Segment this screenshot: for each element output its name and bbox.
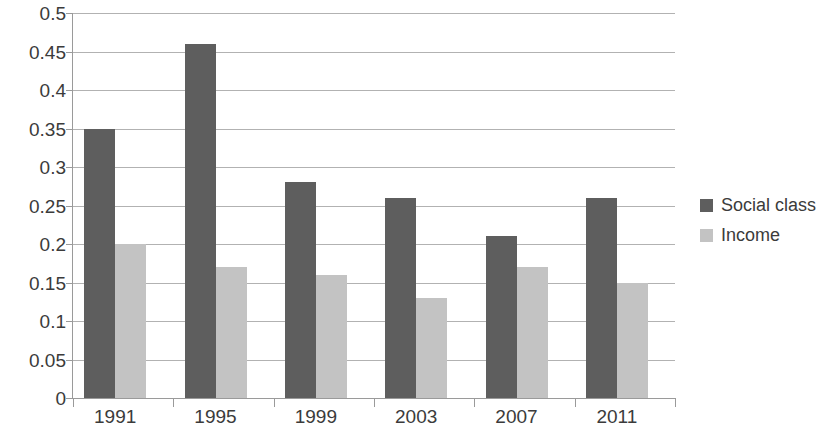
y-axis-tick-label: 0.4 <box>0 81 66 100</box>
bar <box>185 44 216 398</box>
bar <box>316 275 347 398</box>
y-axis-tick <box>66 90 73 91</box>
bar <box>517 267 548 398</box>
x-axis-tick-labels: 199119951999200320072011 <box>73 406 675 436</box>
legend-label: Income <box>721 225 780 245</box>
y-axis-tick-label: 0.45 <box>0 42 66 61</box>
x-axis-tick-label: 1991 <box>94 406 136 428</box>
y-axis-tick <box>66 13 73 14</box>
plot-area <box>73 13 675 398</box>
y-axis-tick-label: 0.3 <box>0 158 66 177</box>
bar <box>216 267 247 398</box>
y-axis-tick <box>66 52 73 53</box>
x-axis-tick-label: 1999 <box>295 406 337 428</box>
bar <box>285 182 316 398</box>
y-axis-tick-label: 0.1 <box>0 312 66 331</box>
y-axis-tick-label: 0 <box>0 389 66 408</box>
y-axis-tick-label: 0.25 <box>0 196 66 215</box>
bar <box>115 244 146 398</box>
legend-swatch-icon <box>700 199 713 212</box>
legend-swatch-icon <box>700 229 713 242</box>
y-axis-tick <box>66 206 73 207</box>
bars-layer <box>73 13 675 398</box>
x-axis-tick <box>675 398 676 407</box>
bar <box>586 198 617 398</box>
legend-item: Income <box>700 220 831 250</box>
bar <box>486 236 517 398</box>
y-axis-tick <box>66 167 73 168</box>
y-axis-tick <box>66 129 73 130</box>
bar <box>84 129 115 399</box>
bar <box>416 298 447 398</box>
y-axis-tick-label: 0.2 <box>0 235 66 254</box>
y-axis-tick-label: 0.05 <box>0 350 66 369</box>
x-axis-tick-label: 2003 <box>395 406 437 428</box>
bar <box>385 198 416 398</box>
x-axis-tick-label: 2011 <box>596 406 637 428</box>
y-axis-tick <box>66 244 73 245</box>
y-axis-tick <box>66 321 73 322</box>
legend-label: Social class <box>721 195 816 215</box>
x-axis-tick-label: 2007 <box>495 406 537 428</box>
x-axis-tick-label: 1995 <box>194 406 236 428</box>
legend-item: Social class <box>700 190 831 220</box>
legend: Social classIncome <box>700 190 831 250</box>
y-axis-tick-label: 0.5 <box>0 4 66 23</box>
y-axis-tick-label: 0.35 <box>0 119 66 138</box>
y-axis-tick-labels: 00.050.10.150.20.250.30.350.40.450.5 <box>0 0 66 441</box>
y-axis-tick <box>66 283 73 284</box>
y-axis-tick <box>66 398 73 399</box>
bar-chart: 00.050.10.150.20.250.30.350.40.450.5 199… <box>0 0 831 441</box>
y-axis-tick-label: 0.15 <box>0 273 66 292</box>
bar <box>617 283 648 399</box>
y-axis-tick <box>66 360 73 361</box>
